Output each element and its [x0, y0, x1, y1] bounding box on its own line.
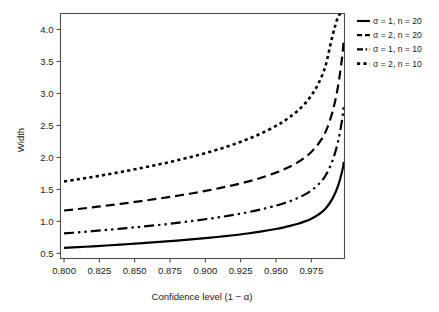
x-tick-label: 0.875 [158, 265, 182, 276]
chart-svg: 0.51.01.52.02.53.03.54.0 0.8000.8250.850… [0, 0, 439, 312]
legend-label-0: σ = 1, n = 20 [373, 16, 422, 26]
y-tick-label: 0.5 [40, 248, 53, 259]
legend-label-2: σ = 1, n = 10 [373, 44, 422, 54]
y-tick-label: 3.0 [40, 88, 53, 99]
y-tick-label: 1.0 [40, 216, 53, 227]
y-tick-label: 2.5 [40, 120, 53, 131]
x-tick-label: 0.850 [123, 265, 147, 276]
x-tick-label: 0.950 [264, 265, 288, 276]
y-tick-label: 2.0 [40, 152, 53, 163]
y-tick-label: 3.5 [40, 56, 53, 67]
x-tick-label: 0.900 [193, 265, 217, 276]
y-axis-label: Width [15, 128, 26, 152]
y-tick-label: 4.0 [40, 24, 53, 35]
legend-label-3: σ = 2, n = 10 [373, 59, 422, 69]
figure-canvas: 0.51.01.52.02.53.03.54.0 0.8000.8250.850… [0, 0, 439, 312]
y-tick-label: 1.5 [40, 184, 53, 195]
x-tick-label: 0.800 [52, 265, 76, 276]
x-tick-label: 0.975 [299, 265, 323, 276]
x-tick-label: 0.925 [229, 265, 253, 276]
x-tick-label: 0.825 [87, 265, 111, 276]
x-axis-label: Confidence level (1 − α) [152, 291, 253, 302]
legend-label-1: σ = 2, n = 20 [373, 30, 422, 40]
